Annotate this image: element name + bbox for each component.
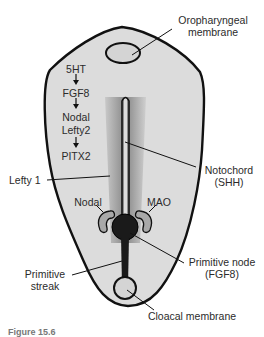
label-lefty2: Lefty2 — [56, 124, 96, 136]
label-5ht: 5HT — [56, 63, 96, 75]
label-notochord-line2: (SHH) — [198, 176, 260, 188]
label-primitive-node-line1: Primitive node — [180, 256, 264, 268]
label-lefty1: Lefty 1 — [9, 174, 41, 186]
label-nodal-cascade: Nodal — [56, 111, 96, 123]
label-primitive-streak-line1: Primitive — [20, 268, 70, 280]
label-notochord: Notochord (SHH) — [198, 164, 260, 188]
label-mao: MAO — [144, 196, 174, 208]
label-oropharyngeal-line2: membrane — [168, 26, 258, 38]
label-fgf8: FGF8 — [56, 87, 96, 99]
label-primitive-node: Primitive node (FGF8) — [180, 256, 264, 280]
label-primitive-node-line2: (FGF8) — [180, 268, 264, 280]
label-oropharyngeal-line1: Oropharyngeal — [168, 14, 258, 26]
label-nodal: Nodal — [70, 196, 106, 208]
label-primitive-streak-line2: streak — [20, 280, 70, 292]
cloacal-membrane — [114, 277, 136, 299]
figure-caption: Figure 15.6 — [8, 327, 56, 337]
label-oropharyngeal: Oropharyngeal membrane — [168, 14, 258, 38]
label-primitive-streak: Primitive streak — [20, 268, 70, 292]
label-pitx2: PITX2 — [56, 150, 96, 162]
label-cloacal-membrane: Cloacal membrane — [146, 310, 238, 322]
label-notochord-line1: Notochord — [198, 164, 260, 176]
